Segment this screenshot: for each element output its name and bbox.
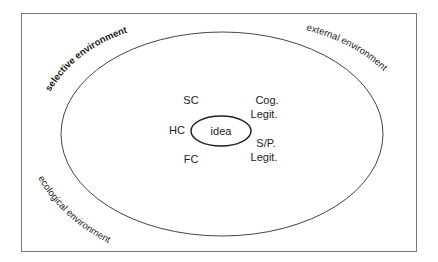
idea-label: idea bbox=[211, 125, 233, 137]
node-sp-legit-line2: Legit. bbox=[251, 151, 278, 163]
node-fc: FC bbox=[184, 153, 199, 165]
node-sc: SC bbox=[183, 94, 198, 106]
organizational-environment-diagram: idea selective environment external envi… bbox=[0, 0, 438, 262]
node-cog-legit-line1: Cog. bbox=[255, 94, 278, 106]
node-cog-legit-line2: Legit. bbox=[251, 108, 278, 120]
node-hc: HC bbox=[169, 124, 185, 136]
node-sp-legit-line1: S/P. bbox=[256, 137, 275, 149]
